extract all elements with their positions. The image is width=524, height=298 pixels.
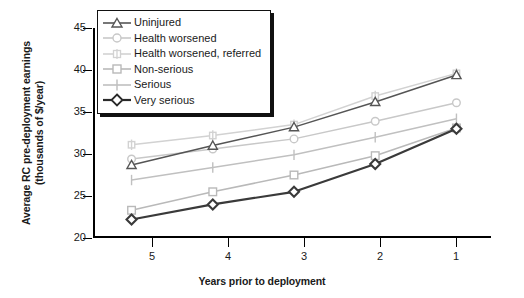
x-tick-label-1: 1 xyxy=(441,250,471,262)
legend-label: Uninjured xyxy=(134,16,181,29)
x-tick-1 xyxy=(456,238,457,247)
line-chart-figure: Average RC pre-deployment earnings (thou… xyxy=(0,0,524,298)
y-tick-label-30: 30 xyxy=(56,147,86,159)
legend-label: Non-serious xyxy=(134,63,193,76)
legend-item-health-worsened: Health worsened xyxy=(102,31,261,47)
legend-key-circle-icon xyxy=(102,31,132,45)
y-tick-label-35: 35 xyxy=(56,105,86,117)
x-tick-label-3: 3 xyxy=(289,250,319,262)
legend-key-square-icon xyxy=(102,62,132,76)
x-axis-title: Years prior to deployment xyxy=(0,275,524,287)
x-tick-label-5: 5 xyxy=(137,250,167,262)
x-tick-3 xyxy=(304,238,305,247)
x-tick-label-4: 4 xyxy=(213,250,243,262)
y-tick-label-45: 45 xyxy=(56,21,86,33)
legend-item-serious: Serious xyxy=(102,77,261,93)
legend-key-triangle-icon xyxy=(102,16,132,30)
x-tick-5 xyxy=(152,238,153,247)
legend-key-plus-box-icon xyxy=(102,47,132,61)
x-tick-4 xyxy=(228,238,229,247)
legend-item-uninjured: Uninjured xyxy=(102,15,261,31)
legend-item-health-worsened-referred: Health worsened, referred xyxy=(102,46,261,62)
x-tick-2 xyxy=(380,238,381,247)
legend-item-very-serious: Very serious xyxy=(102,93,261,109)
x-tick-label-2: 2 xyxy=(365,250,395,262)
y-tick-label-25: 25 xyxy=(56,189,86,201)
chart-legend: Uninjured Health worsened Health worsene… xyxy=(97,10,271,114)
y-axis-title: Average RC pre-deployment earnings (thou… xyxy=(20,8,46,258)
y-tick-label-20: 20 xyxy=(56,231,86,243)
legend-key-diamond-icon xyxy=(102,93,132,107)
legend-item-non-serious: Non-serious xyxy=(102,62,261,78)
legend-label: Health worsened, referred xyxy=(134,47,261,60)
legend-label: Very serious xyxy=(134,94,195,107)
legend-key-plus-icon xyxy=(102,78,132,92)
legend-label: Serious xyxy=(134,78,171,91)
legend-label: Health worsened xyxy=(134,32,217,45)
y-tick-label-40: 40 xyxy=(56,63,86,75)
